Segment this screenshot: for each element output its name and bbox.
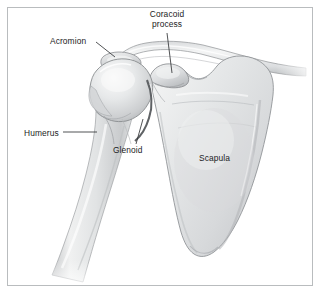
label-coracoid-process: Coracoid process — [136, 9, 198, 29]
shoulder-anatomy-figure: Coracoid process Acromion Humerus Glenoi… — [0, 0, 321, 294]
humerus-bone — [38, 59, 153, 294]
label-humerus: Humerus — [24, 128, 59, 138]
coracoid-process-bone — [150, 64, 189, 88]
label-coracoid-line1: Coracoid — [150, 9, 184, 19]
label-coracoid-line2: process — [152, 19, 182, 29]
label-scapula: Scapula — [199, 153, 230, 163]
label-glenoid: Glenoid — [113, 145, 143, 155]
anatomy-illustration — [0, 0, 321, 294]
label-acromion: Acromion — [50, 36, 86, 46]
